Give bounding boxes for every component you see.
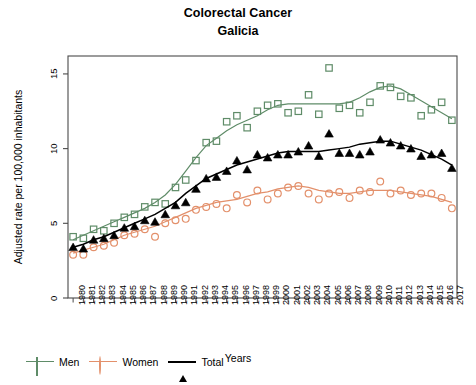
data-point bbox=[326, 190, 333, 197]
data-point bbox=[100, 242, 107, 249]
data-point bbox=[131, 230, 138, 237]
data-point bbox=[376, 136, 385, 144]
data-point bbox=[437, 149, 446, 157]
data-point bbox=[397, 93, 403, 99]
data-point bbox=[408, 192, 415, 199]
data-point bbox=[316, 111, 322, 117]
legend-key-total bbox=[168, 356, 196, 368]
legend-item-men: Men bbox=[26, 356, 79, 368]
data-point bbox=[367, 189, 374, 196]
data-point bbox=[357, 110, 363, 116]
legend-label-women: Women bbox=[122, 356, 158, 368]
data-point bbox=[387, 84, 393, 90]
data-point bbox=[315, 196, 322, 203]
legend-item-women: Women bbox=[89, 356, 158, 368]
data-point bbox=[366, 148, 375, 156]
data-point bbox=[223, 205, 230, 212]
chart-figure: Colorectal Cancer Galicia Adjusted rate … bbox=[0, 0, 476, 385]
data-point bbox=[448, 164, 457, 172]
data-point bbox=[213, 138, 219, 144]
data-point bbox=[234, 113, 240, 119]
legend-item-total: Total bbox=[168, 356, 223, 368]
data-point bbox=[213, 200, 220, 207]
data-point bbox=[244, 199, 251, 206]
data-point bbox=[182, 215, 189, 222]
data-point bbox=[346, 195, 353, 202]
legend-label-total: Total bbox=[201, 356, 223, 368]
data-point bbox=[315, 152, 324, 160]
data-point bbox=[355, 150, 364, 158]
legend-key-men bbox=[26, 356, 54, 368]
data-point bbox=[367, 99, 373, 105]
data-point bbox=[223, 119, 229, 125]
data-point bbox=[326, 65, 332, 71]
data-point bbox=[203, 203, 210, 210]
chart-legend: Men Women Total bbox=[26, 353, 286, 371]
data-point bbox=[438, 195, 445, 202]
data-point bbox=[397, 187, 404, 194]
legend-label-men: Men bbox=[59, 356, 79, 368]
data-point bbox=[110, 231, 119, 239]
data-point bbox=[387, 190, 394, 197]
data-point bbox=[264, 102, 270, 108]
data-point bbox=[285, 110, 291, 116]
data-point bbox=[254, 108, 260, 114]
data-point bbox=[234, 192, 241, 199]
data-point bbox=[418, 113, 424, 119]
data-point bbox=[345, 149, 354, 157]
data-point bbox=[305, 190, 312, 197]
data-point bbox=[304, 142, 313, 150]
data-point bbox=[181, 198, 190, 206]
data-point bbox=[418, 190, 425, 197]
data-point bbox=[295, 108, 301, 114]
data-point bbox=[325, 130, 334, 138]
data-point bbox=[152, 233, 159, 240]
data-point bbox=[336, 105, 342, 111]
data-point bbox=[335, 149, 344, 157]
data-point bbox=[244, 125, 250, 131]
data-point bbox=[130, 222, 139, 230]
data-point bbox=[203, 139, 209, 145]
data-point bbox=[356, 187, 363, 194]
data-point bbox=[161, 210, 170, 218]
data-point bbox=[171, 201, 180, 209]
data-point bbox=[438, 99, 444, 105]
data-point bbox=[233, 156, 242, 164]
data-point bbox=[162, 201, 168, 207]
data-point bbox=[305, 92, 311, 98]
legend-key-women bbox=[89, 356, 117, 368]
data-point bbox=[377, 178, 384, 185]
data-point bbox=[427, 150, 436, 158]
data-point bbox=[417, 152, 426, 160]
data-point bbox=[70, 251, 77, 258]
data-point bbox=[428, 190, 435, 197]
plot-area bbox=[0, 0, 476, 385]
data-point bbox=[253, 150, 262, 158]
data-point bbox=[448, 205, 455, 212]
data-point bbox=[243, 165, 252, 173]
data-point bbox=[151, 218, 160, 226]
data-point bbox=[212, 173, 221, 181]
data-point bbox=[202, 174, 211, 182]
data-point bbox=[183, 177, 189, 183]
data-point bbox=[101, 228, 107, 234]
data-point bbox=[120, 224, 129, 232]
data-point bbox=[274, 190, 281, 197]
data-point bbox=[264, 196, 271, 203]
data-point bbox=[336, 189, 343, 196]
